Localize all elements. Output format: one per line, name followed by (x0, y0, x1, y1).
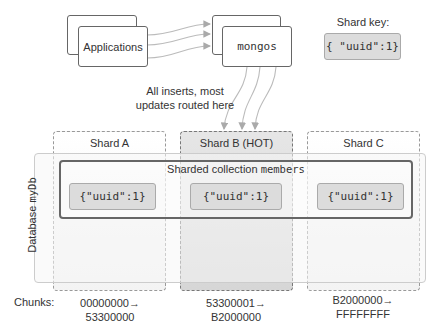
applications-label: Applications (83, 41, 142, 53)
collection-label: Sharded collection members (59, 163, 413, 175)
shard-b-chunk-range: 53300001→ B2000000 (196, 296, 276, 324)
database-label: Database myDb (26, 155, 40, 275)
routing-note: All inserts, most updates routed here (130, 84, 240, 112)
shard-a-chunk-range: 00000000→ 53300000 (70, 296, 150, 324)
database-name: myDb (26, 177, 38, 202)
routing-note-line-1: All inserts, most (130, 84, 240, 98)
collection-name: members (261, 163, 305, 175)
shard-a-key: {"uuid":1} (69, 183, 156, 210)
routing-note-line-2: updates routed here (130, 98, 240, 112)
shard-b-title: Shard B (HOT) (181, 137, 292, 149)
applications-box: Applications (78, 26, 148, 67)
shard-b-key: {"uuid":1} (190, 183, 282, 210)
shard-key-box: { "uuid":1} (324, 33, 401, 60)
chunks-label: Chunks: (14, 296, 54, 308)
mongos-box: mongos (222, 26, 292, 67)
shard-a-title: Shard A (54, 137, 165, 149)
shard-c-title: Shard C (308, 137, 419, 149)
shard-c-key: {"uuid":1} (317, 183, 404, 210)
shard-key-value: { "uuid":1} (326, 40, 399, 53)
shard-key-title: Shard key: (322, 16, 404, 28)
mongos-label: mongos (237, 40, 277, 53)
shard-c-chunk-range: B2000000→ FFFFFFFF (323, 293, 403, 321)
